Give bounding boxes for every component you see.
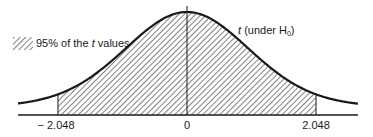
curve-label: t (under H0) <box>238 25 295 37</box>
legend-hatch-swatch <box>13 37 33 50</box>
legend-label: 95% of the t values <box>36 38 130 49</box>
tick-label-lower: − 2.048 <box>37 120 74 131</box>
tick-label-zero: 0 <box>184 120 190 131</box>
t-distribution-chart <box>0 0 373 137</box>
tick-label-upper: 2.048 <box>302 120 330 131</box>
